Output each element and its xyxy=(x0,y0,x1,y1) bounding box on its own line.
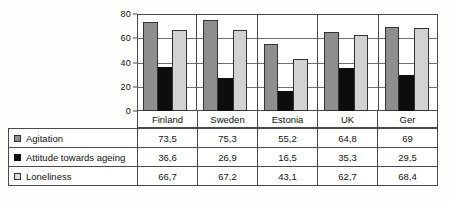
category-label: Estonia xyxy=(258,111,318,127)
table-value: 55,2 xyxy=(258,129,318,147)
table-value: 64,8 xyxy=(318,129,378,147)
legend-label: Loneliness xyxy=(26,171,71,182)
legend-label: Agitation xyxy=(26,133,63,144)
black-swatch-icon xyxy=(14,154,21,161)
bar-group xyxy=(197,14,257,111)
table-value: 26,9 xyxy=(198,148,258,166)
bar xyxy=(143,22,158,111)
bar-set xyxy=(143,14,187,111)
bar xyxy=(218,78,233,111)
bar-group xyxy=(379,14,438,111)
bar-group xyxy=(318,14,378,111)
bar xyxy=(203,20,218,111)
table-value: 66,7 xyxy=(138,167,198,185)
y-axis-tick-label: 80 xyxy=(121,10,131,19)
table-value: 16,5 xyxy=(258,148,318,166)
table-value: 29,5 xyxy=(378,148,437,166)
light-gray-swatch-icon xyxy=(14,173,21,180)
bar-group xyxy=(137,14,197,111)
table-value: 62,7 xyxy=(318,167,378,185)
legend-label: Attitude towards ageing xyxy=(26,152,125,163)
bar-set xyxy=(324,14,368,111)
y-axis-tick-label: 40 xyxy=(121,58,131,67)
y-axis: 020406080 xyxy=(106,14,137,111)
bar xyxy=(293,59,308,111)
category-header-row: FinlandSwedenEstoniaUKGer xyxy=(137,111,438,128)
table-value: 43,1 xyxy=(258,167,318,185)
category-label: Finland xyxy=(138,111,198,127)
y-axis-tick-label: 60 xyxy=(121,34,131,43)
bar xyxy=(339,68,354,111)
bar xyxy=(172,30,187,111)
legend-entry: Loneliness xyxy=(9,167,138,185)
chart-figure: 020406080 FinlandSwedenEstoniaUKGer Agit… xyxy=(0,0,450,201)
bar xyxy=(233,30,248,111)
bar xyxy=(399,75,414,111)
bar xyxy=(264,44,279,111)
bar xyxy=(158,67,173,111)
table-row: Attitude towards ageing36,626,916,535,32… xyxy=(9,148,437,167)
category-label: Sweden xyxy=(198,111,258,127)
bar xyxy=(324,32,339,111)
table-value: 73,5 xyxy=(138,129,198,147)
bar xyxy=(354,35,369,111)
table-value: 67,2 xyxy=(198,167,258,185)
table-value: 36,6 xyxy=(138,148,198,166)
table-row: Agitation73,575,355,264,869 xyxy=(9,129,437,148)
bar-set xyxy=(385,14,429,111)
bar-groups xyxy=(137,14,438,111)
table-value: 68,4 xyxy=(378,167,437,185)
bar-group xyxy=(258,14,318,111)
category-label: Ger xyxy=(378,111,437,127)
legend-entry: Attitude towards ageing xyxy=(9,148,138,166)
plot-area xyxy=(137,14,438,111)
bar xyxy=(385,27,400,111)
legend-entry: Agitation xyxy=(9,129,138,147)
bar-set xyxy=(264,14,308,111)
category-label: UK xyxy=(318,111,378,127)
y-axis-tick-label: 0 xyxy=(126,107,131,116)
bar xyxy=(278,91,293,111)
table-value: 75,3 xyxy=(198,129,258,147)
table-row: Loneliness66,767,243,162,768,4 xyxy=(9,167,437,186)
bar-set xyxy=(203,14,247,111)
gray-swatch-icon xyxy=(14,135,21,142)
y-axis-tick-label: 20 xyxy=(121,82,131,91)
bar xyxy=(414,28,429,111)
table-value: 35,3 xyxy=(318,148,378,166)
table-value: 69 xyxy=(378,129,437,147)
data-table: Agitation73,575,355,264,869Attitude towa… xyxy=(8,128,438,186)
